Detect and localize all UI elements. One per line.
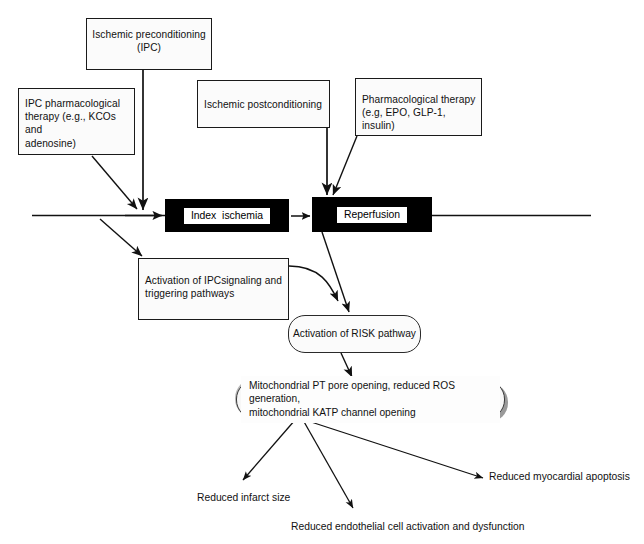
- box-ipc-signaling: Activation of IPCsignaling and triggerin…: [138, 258, 289, 320]
- box-mitochondrial-label: Mitochondrial PT pore opening, reduced R…: [241, 376, 500, 423]
- box-ischemic-preconditioning-label: Ischemic preconditioning (IPC): [87, 28, 211, 54]
- arrow-signaling-to-risk: [289, 266, 338, 301]
- box-ischemic-preconditioning: Ischemic preconditioning (IPC): [86, 18, 212, 70]
- box-risk-pathway-label: Activation of RISK pathway: [293, 327, 416, 340]
- arrow-pharm-to-reperfusion: [333, 136, 357, 195]
- arrow-reperfusion-to-risk: [322, 232, 349, 312]
- box-risk-pathway: Activation of RISK pathway: [288, 315, 421, 353]
- event-bar-reperfusion: Reperfusion: [312, 197, 432, 232]
- box-pharmacological-therapy: Pharmacological therapy (e.g, EPO, GLP-1…: [355, 78, 482, 136]
- arrow-ipcpharm-to-ischemia: [92, 156, 137, 209]
- arrow-risk-to-mitochondrial: [341, 353, 352, 377]
- box-ischemic-postconditioning: Ischemic postconditioning: [197, 80, 330, 128]
- arrow-to-reduced-apoptosis: [305, 420, 483, 478]
- box-ischemic-postconditioning-label: Ischemic postconditioning: [204, 98, 325, 111]
- box-pharmacological-therapy-label: Pharmacological therapy (e.g, EPO, GLP-1…: [362, 93, 477, 133]
- event-bar-reperfusion-label: Reperfusion: [337, 207, 407, 223]
- arrow-ipcpharm-to-signaling: [100, 219, 142, 256]
- box-ipc-pharmacological: IPC pharmacological therapy (e.g., KCOs …: [18, 88, 135, 155]
- event-bar-index-ischemia: Index ischemia: [165, 199, 289, 232]
- diagram-canvas: Ischemic preconditioning (IPC) IPC pharm…: [0, 0, 644, 544]
- box-ipc-pharmacological-label: IPC pharmacological therapy (e.g., KCOs …: [25, 97, 130, 150]
- outcome-reduced-infarct-size: Reduced infarct size: [197, 491, 290, 504]
- arrow-to-reduced-endothelial: [303, 420, 353, 508]
- outcome-reduced-myocardial-apoptosis: Reduced myocardial apoptosis: [489, 470, 630, 483]
- box-mitochondrial: Mitochondrial PT pore opening, reduced R…: [236, 380, 505, 419]
- arrow-to-reduced-infarct: [243, 420, 295, 480]
- box-ipc-signaling-label: Activation of IPCsignaling and triggerin…: [145, 274, 284, 300]
- outcome-reduced-endothelial-dysfunction: Reduced endothelial cell activation and …: [291, 520, 525, 533]
- event-bar-index-ischemia-label: Index ischemia: [184, 208, 270, 224]
